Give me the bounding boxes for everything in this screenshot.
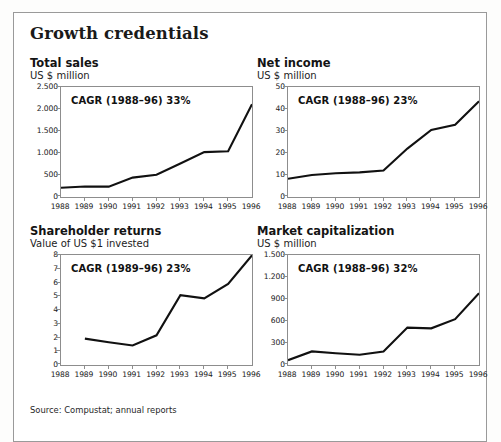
- x-axis-tick: [179, 198, 180, 201]
- x-axis: 198819891990199119921993199419951996: [60, 198, 253, 214]
- x-axis-tick-label: 1992: [373, 370, 392, 379]
- y-axis-tick-label: 2.000: [37, 104, 58, 113]
- x-axis-tick-label: 1988: [51, 370, 70, 379]
- x-axis-tick-label: 1993: [170, 202, 189, 211]
- chart-axis-unit-label: US $ million: [257, 238, 482, 250]
- chart-title: Market capitalization: [257, 225, 482, 238]
- x-axis-tick-label: 1990: [98, 202, 117, 211]
- page-title: Growth credentials: [30, 24, 209, 43]
- x-axis-tick: [406, 366, 407, 369]
- y-axis: 05001.0001.5002.0002.500: [30, 86, 58, 198]
- x-axis-tick-label: 1994: [421, 370, 440, 379]
- x-axis-tick: [383, 198, 384, 201]
- x-axis-tick: [227, 198, 228, 201]
- chart-panel-total-sales: Total sales US $ million 05001.0001.5002…: [30, 57, 255, 222]
- y-axis: 01020304050: [257, 86, 285, 198]
- x-axis-tick-label: 1996: [469, 370, 488, 379]
- y-axis-tick-label: 0: [53, 360, 58, 369]
- chart-annotation: CAGR (1989–96) 23%: [71, 263, 191, 274]
- figure-container: Growth credentials Total sales US $ mill…: [13, 12, 487, 442]
- x-axis-tick-label: 1992: [146, 370, 165, 379]
- x-axis-tick: [383, 366, 384, 369]
- y-axis-tick-label: 1.500: [264, 250, 285, 259]
- x-axis: 198819891990199119921993199419951996: [287, 366, 480, 382]
- chart-annotation: CAGR (1988–96) 23%: [298, 95, 418, 106]
- x-axis-tick: [335, 366, 336, 369]
- x-axis-tick: [84, 198, 85, 201]
- y-axis: 03006009001.2001.500: [257, 254, 285, 366]
- chart-panel-market-capitalization: Market capitalization US $ million 03006…: [257, 225, 482, 390]
- chart-title: Net income: [257, 57, 482, 70]
- x-axis-tick: [454, 366, 455, 369]
- x-axis-tick-label: 1989: [75, 202, 94, 211]
- y-axis-tick-label: 1.000: [37, 148, 58, 157]
- x-axis-tick-label: 1988: [51, 202, 70, 211]
- x-axis-tick-label: 1988: [278, 370, 297, 379]
- x-axis-tick: [132, 198, 133, 201]
- x-axis-tick-label: 1990: [98, 370, 117, 379]
- y-axis-tick-label: 1.500: [37, 126, 58, 135]
- plot-area: CAGR (1988–96) 33%: [60, 86, 253, 198]
- x-axis-tick-label: 1990: [325, 370, 344, 379]
- x-axis-tick-label: 1993: [397, 370, 416, 379]
- y-axis-tick-label: 1.200: [264, 272, 285, 281]
- x-axis-tick: [359, 198, 360, 201]
- x-axis-tick-label: 1994: [194, 370, 213, 379]
- plot-wrapper: 05001.0001.5002.0002.500 CAGR (1988–96) …: [30, 86, 255, 214]
- x-axis: 198819891990199119921993199419951996: [60, 366, 253, 382]
- x-axis-tick-label: 1991: [349, 370, 368, 379]
- x-axis-tick-label: 1995: [218, 370, 237, 379]
- x-axis-tick-label: 1993: [397, 202, 416, 211]
- x-axis-tick: [132, 366, 133, 369]
- chart-title: Shareholder returns: [30, 225, 255, 238]
- x-axis-tick: [203, 366, 204, 369]
- x-axis-tick-label: 1991: [122, 202, 141, 211]
- x-axis-tick: [406, 198, 407, 201]
- x-axis-tick-label: 1992: [373, 202, 392, 211]
- plot-area: CAGR (1989–96) 23%: [60, 254, 253, 366]
- x-axis-tick: [335, 198, 336, 201]
- plot-wrapper: 03006009001.2001.500 CAGR (1988–96) 32% …: [257, 254, 482, 382]
- x-axis-tick: [108, 198, 109, 201]
- chart-axis-unit-label: Value of US $1 invested: [30, 238, 255, 250]
- x-axis-tick: [430, 198, 431, 201]
- x-axis-tick: [454, 198, 455, 201]
- x-axis-tick-label: 1989: [302, 202, 321, 211]
- plot-wrapper: 012345678 CAGR (1989–96) 23% 19881989199…: [30, 254, 255, 382]
- x-axis-tick-label: 1990: [325, 202, 344, 211]
- x-axis-tick-label: 1992: [146, 202, 165, 211]
- y-axis: 012345678: [30, 254, 58, 366]
- x-axis: 198819891990199119921993199419951996: [287, 198, 480, 214]
- source-note: Source: Compustat; annual reports: [30, 405, 177, 415]
- plot-wrapper: 01020304050 CAGR (1988–96) 23% 198819891…: [257, 86, 482, 214]
- chart-axis-unit-label: US $ million: [30, 70, 255, 82]
- plot-area: CAGR (1988–96) 23%: [287, 86, 480, 198]
- chart-title: Total sales: [30, 57, 255, 70]
- x-axis-tick: [179, 366, 180, 369]
- y-axis-tick-label: 0: [280, 192, 285, 201]
- x-axis-tick-label: 1994: [194, 202, 213, 211]
- x-axis-tick: [203, 198, 204, 201]
- x-axis-tick: [227, 366, 228, 369]
- x-axis-tick-label: 1988: [278, 202, 297, 211]
- y-axis-tick-label: 0: [280, 360, 285, 369]
- x-axis-tick-label: 1991: [122, 370, 141, 379]
- x-axis-tick-label: 1994: [421, 202, 440, 211]
- x-axis-tick-label: 1995: [445, 370, 464, 379]
- chart-annotation: CAGR (1988–96) 32%: [298, 263, 418, 274]
- plot-area: CAGR (1988–96) 32%: [287, 254, 480, 366]
- x-axis-tick-label: 1989: [302, 370, 321, 379]
- chart-panel-net-income: Net income US $ million 01020304050 CAGR…: [257, 57, 482, 222]
- chart-axis-unit-label: US $ million: [257, 70, 482, 82]
- x-axis-tick-label: 1995: [445, 202, 464, 211]
- x-axis-tick: [311, 198, 312, 201]
- x-axis-tick: [311, 366, 312, 369]
- chart-annotation: CAGR (1988–96) 33%: [71, 95, 191, 106]
- x-axis-tick-label: 1993: [170, 370, 189, 379]
- x-axis-tick: [430, 366, 431, 369]
- x-axis-tick-label: 1996: [469, 202, 488, 211]
- x-axis-tick: [156, 198, 157, 201]
- chart-panel-shareholder-returns: Shareholder returns Value of US $1 inves…: [30, 225, 255, 390]
- x-axis-tick-label: 1991: [349, 202, 368, 211]
- x-axis-tick: [156, 366, 157, 369]
